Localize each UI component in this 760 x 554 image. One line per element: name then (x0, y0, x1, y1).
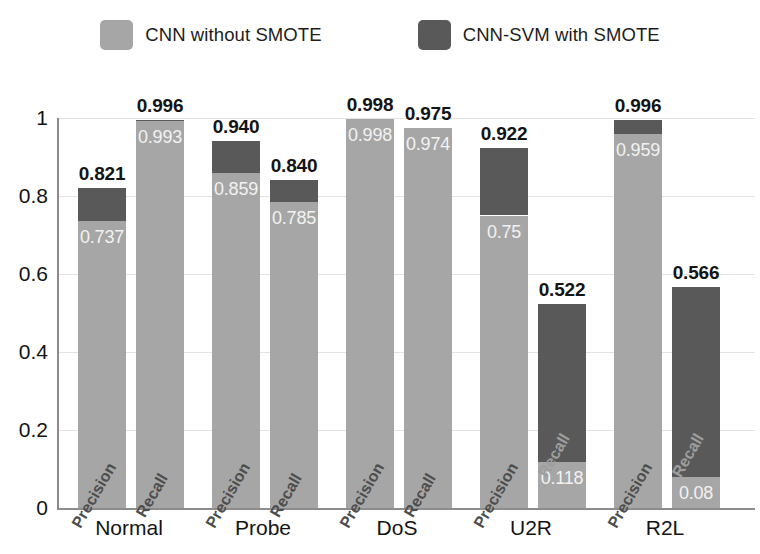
bar-value-label-with-smote: 0.996 (615, 95, 662, 117)
bar-segment-without-smote[interactable] (346, 119, 394, 508)
bar-normal-recall[interactable]: 0.9960.993Recall (136, 118, 184, 508)
bar-value-label-with-smote: 0.566 (673, 262, 720, 284)
y-axis-tick-label: 0 (36, 496, 48, 520)
bar-value-label-without-smote: 0.08 (679, 483, 713, 504)
bar-value-label-with-smote: 0.998 (347, 94, 394, 116)
y-axis-tick-label: 0.8 (19, 184, 48, 208)
bar-dos-precision[interactable]: 0.9980.998Precision (346, 118, 394, 508)
x-axis: NormalProbeDoSU2RR2L (57, 512, 753, 548)
bar-normal-precision[interactable]: 0.8210.737Precision (78, 118, 126, 508)
bar-segment-without-smote[interactable] (270, 202, 318, 508)
bar-value-label-without-smote: 0.959 (616, 140, 660, 161)
bar-value-label-without-smote: 0.974 (406, 134, 450, 155)
bar-dos-recall[interactable]: 0.9750.974Recall (404, 118, 452, 508)
legend-entry-cnn-without-smote: CNN without SMOTE (100, 20, 321, 50)
bar-value-label-without-smote: 0.993 (138, 127, 182, 148)
bar-value-label-with-smote: 0.821 (79, 163, 126, 185)
bar-value-label-without-smote: 0.998 (348, 125, 392, 146)
chart-legend: CNN without SMOTE CNN-SVM with SMOTE (0, 12, 760, 58)
x-axis-tick-label: R2L (646, 516, 685, 540)
bar-u2r-precision[interactable]: 0.9220.75Precision (480, 118, 528, 508)
y-axis-tick-label: 0.4 (19, 340, 48, 364)
legend-entry-cnn-svm-with-smote: CNN-SVM with SMOTE (418, 20, 660, 50)
legend-swatch-dark-icon (418, 20, 451, 50)
bar-value-label-with-smote: 0.522 (539, 279, 586, 301)
plot-area: 0.8210.737Precision0.9960.993Recall0.940… (57, 118, 755, 510)
bar-value-label-without-smote: 0.859 (214, 179, 258, 200)
bar-u2r-recall[interactable]: 0.5220.118Recall (538, 118, 586, 508)
bar-value-label-without-smote: 0.75 (487, 222, 521, 243)
bar-segment-with-smote[interactable] (614, 120, 662, 134)
bar-segment-with-smote[interactable] (212, 141, 260, 173)
bar-segment-without-smote[interactable] (212, 173, 260, 508)
bar-segment-with-smote[interactable] (480, 148, 528, 215)
bar-value-label-with-smote: 0.975 (405, 103, 452, 125)
bar-value-label-without-smote: 0.785 (272, 208, 316, 229)
bar-segment-with-smote[interactable] (78, 188, 126, 221)
bar-value-label-with-smote: 0.996 (137, 95, 184, 117)
bar-chart: CNN without SMOTE CNN-SVM with SMOTE 00.… (0, 0, 760, 554)
bar-r2l-precision[interactable]: 0.9960.959Precision (614, 118, 662, 508)
x-axis-tick-label: DoS (377, 516, 418, 540)
bar-value-label-with-smote: 0.840 (271, 155, 318, 177)
bar-probe-recall[interactable]: 0.8400.785Recall (270, 118, 318, 508)
bar-value-label-without-smote: 0.737 (80, 227, 124, 248)
bar-probe-precision[interactable]: 0.9400.859Precision (212, 118, 260, 508)
legend-label-cnn-without-smote: CNN without SMOTE (145, 24, 321, 46)
x-axis-tick-label: Probe (235, 516, 291, 540)
bar-value-label-with-smote: 0.940 (213, 116, 260, 138)
bar-value-label-with-smote: 0.922 (481, 123, 528, 145)
legend-label-cnn-svm-with-smote: CNN-SVM with SMOTE (463, 24, 660, 46)
y-axis-tick-label: 0.6 (19, 262, 48, 286)
x-axis-tick-label: U2R (510, 516, 552, 540)
x-axis-tick-label: Normal (95, 516, 163, 540)
y-axis: 00.20.40.60.81 (0, 118, 48, 508)
bar-r2l-recall[interactable]: 0.5660.08Recall (672, 118, 720, 508)
bar-segment-without-smote[interactable] (404, 128, 452, 508)
bar-segment-with-smote[interactable] (270, 180, 318, 201)
y-axis-tick-label: 0.2 (19, 418, 48, 442)
bar-segment-without-smote[interactable] (136, 121, 184, 508)
y-axis-tick-label: 1 (36, 106, 48, 130)
legend-swatch-light-icon (100, 20, 133, 50)
bar-segment-without-smote[interactable] (614, 134, 662, 508)
